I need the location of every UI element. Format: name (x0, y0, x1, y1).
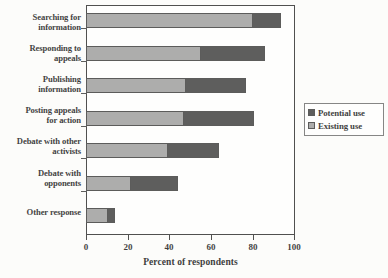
chart-legend: Potential use Existing use (304, 103, 384, 136)
bar-segment-potential-use (201, 47, 264, 60)
x-tick-label-0: 0 (71, 242, 101, 252)
bar-segment-existing-use (87, 14, 253, 27)
x-tick-label-20: 20 (113, 242, 143, 252)
y-label-line2: activists (52, 146, 81, 156)
bar-segment-potential-use (108, 209, 114, 222)
bar-searching-for-information (86, 13, 281, 28)
x-axis-title: Percent of respondents (86, 257, 295, 267)
x-tick (86, 235, 87, 240)
bar-debate-with-opponents (86, 176, 178, 191)
dark-square-icon (308, 109, 315, 116)
bar-segment-potential-use (168, 144, 218, 157)
x-tick (211, 235, 212, 240)
bar-debate-with-other-activists (86, 143, 219, 158)
y-label-debate-with-other-activists: Debate with other activists (0, 137, 81, 156)
x-tick (169, 235, 170, 240)
chart-container: Searching for information Responding to … (0, 0, 388, 278)
y-label-line1: Posting appeals (25, 105, 81, 115)
y-label-line1: Responding to (30, 43, 81, 53)
x-tick-label-40: 40 (154, 242, 184, 252)
y-label-posting-appeals-for-action: Posting appeals for action (0, 106, 81, 125)
y-label-searching-for-information: Searching for information (0, 13, 81, 32)
legend-label-existing-use: Existing use (318, 121, 362, 131)
x-tick-label-80: 80 (238, 242, 268, 252)
y-label-line2: for action (47, 115, 81, 125)
bar-segment-existing-use (87, 177, 131, 190)
y-label-publishing-information: Publishing information (0, 75, 81, 94)
y-axis-labels: Searching for information Responding to … (0, 5, 84, 235)
legend-label-potential-use: Potential use (318, 108, 365, 118)
y-label-line2: information (38, 22, 81, 32)
y-label-line1: Debate with (38, 168, 81, 178)
y-label-line1: Searching for (33, 12, 81, 22)
x-tick-label-100: 100 (279, 242, 309, 252)
bar-segment-potential-use (131, 177, 177, 190)
y-label-other-response: Other response (0, 208, 81, 218)
x-tick (253, 235, 254, 240)
bar-other-response (86, 208, 115, 223)
bars-layer (86, 5, 295, 235)
legend-item-existing-use: Existing use (308, 119, 381, 132)
y-label-line2: opponents (44, 178, 81, 188)
bar-segment-potential-use (253, 14, 280, 27)
y-label-debate-with-opponents: Debate with opponents (0, 169, 81, 188)
y-label-line2: appeals (54, 53, 81, 63)
bar-segment-existing-use (87, 79, 186, 92)
y-label-line1: Debate with other (17, 136, 81, 146)
bar-segment-existing-use (87, 144, 168, 157)
y-label-responding-to-appeals: Responding to appeals (0, 44, 81, 63)
x-tick-label-60: 60 (196, 242, 226, 252)
bar-responding-to-appeals (86, 46, 265, 61)
y-label-line1: Other response (27, 207, 81, 217)
legend-item-potential-use: Potential use (308, 106, 381, 119)
bar-segment-existing-use (87, 112, 184, 125)
y-label-line2: information (38, 84, 81, 94)
bar-publishing-information (86, 78, 246, 93)
light-square-icon (308, 122, 315, 129)
bar-posting-appeals-for-action (86, 111, 254, 126)
x-tick (294, 235, 295, 240)
x-tick (128, 235, 129, 240)
bar-segment-potential-use (186, 79, 245, 92)
y-label-line1: Publishing (43, 74, 81, 84)
bar-segment-existing-use (87, 47, 201, 60)
bar-segment-potential-use (184, 112, 253, 125)
bar-segment-existing-use (87, 209, 108, 222)
